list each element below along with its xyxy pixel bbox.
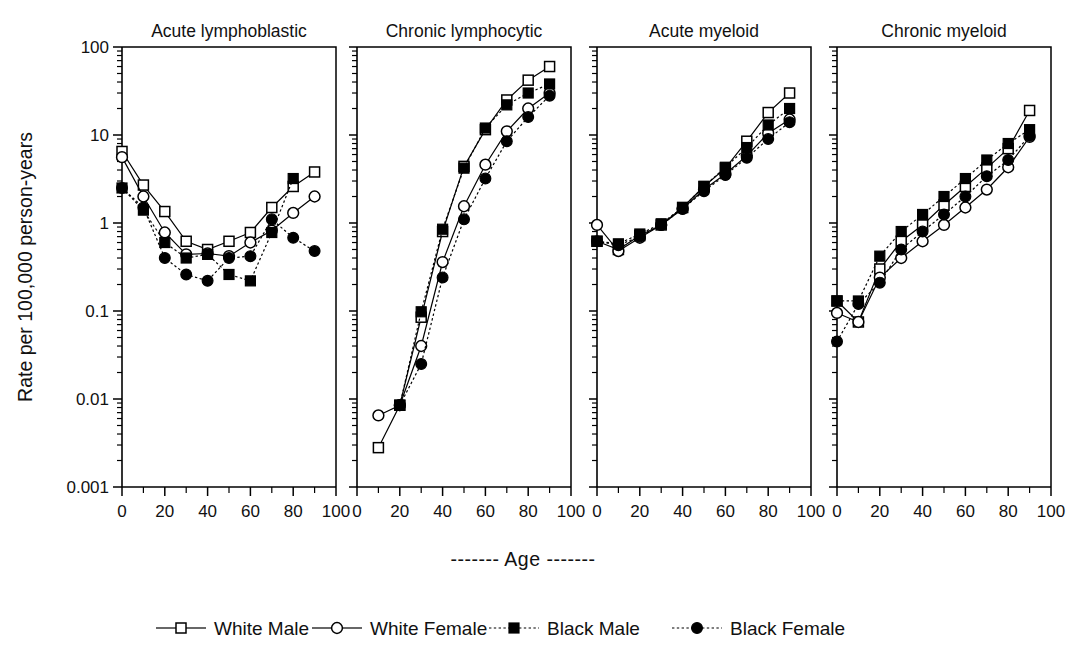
legend-marker-filled-circle [692,623,703,634]
data-point [545,62,555,72]
data-point [181,236,191,246]
data-point [523,88,533,98]
y-tick-label: 0.1 [85,302,109,321]
data-point [982,155,992,165]
data-point [960,202,971,213]
x-tick-label: 80 [284,502,303,521]
data-point [634,231,645,242]
data-point [1003,139,1013,149]
x-tick-label: 100 [322,502,350,521]
x-tick-label: 0 [352,502,361,521]
data-point [853,299,864,310]
data-point [785,88,795,98]
legend-label: White Female [370,618,487,639]
data-point [1025,105,1035,115]
data-point [203,249,213,259]
data-point [741,152,752,163]
y-tick-label: 1 [100,214,109,233]
data-point [373,410,384,421]
x-tick-label: 20 [155,502,174,521]
data-point [939,220,950,231]
panel-title: Acute myeloid [649,21,759,41]
y-axis: 1001010.10.010.001 [66,38,122,497]
legend-item-white-male[interactable]: White Male [156,618,309,639]
data-point [138,180,148,190]
x-tick-label: 100 [557,502,585,521]
data-point [267,203,277,213]
data-point [309,191,320,202]
data-point [245,237,256,248]
legend-item-black-female[interactable]: Black Female [672,618,845,639]
panel-4: 020406080100Chronic myeloid [829,21,1065,521]
data-point [832,336,843,347]
panel-title: Chronic myeloid [881,21,1006,41]
data-point [416,307,426,317]
data-point [159,253,170,264]
data-point [288,232,299,243]
data-point [288,174,298,184]
data-point [960,191,971,202]
data-point [763,134,774,145]
data-point [1024,130,1035,141]
x-tick-label: 40 [673,502,692,521]
data-point [160,207,170,217]
data-point [373,443,383,453]
data-point [592,220,603,231]
series-white-female [373,88,555,421]
data-point [437,272,448,283]
legend-label: Black Female [730,618,845,639]
data-point [523,112,534,123]
data-point [544,90,555,101]
x-tick-label: 20 [630,502,649,521]
data-point [545,79,555,89]
x-tick-label: 0 [117,502,126,521]
data-point [438,224,448,234]
legend-marker-open-square [176,623,186,633]
legend-item-black-male[interactable]: Black Male [489,618,640,639]
data-point [613,240,624,251]
data-point [785,104,795,114]
data-point [224,236,234,246]
y-tick-label: 10 [90,126,109,145]
legend-label: Black Male [547,618,640,639]
data-point [245,227,255,237]
data-point [245,276,255,286]
x-tick-label: 100 [1037,502,1065,521]
data-point [742,143,752,153]
y-axis-title: Rate per 100,000 person-years [14,132,36,402]
series-black-male [592,104,795,249]
panel-2: 020406080100Chronic lymphocytic [349,21,585,521]
x-tick-label: 80 [999,502,1018,521]
legend-item-white-female[interactable]: White Female [312,618,487,639]
data-point [981,184,992,195]
data-point [592,236,603,247]
x-tick-label: 100 [797,502,825,521]
data-point [480,159,491,170]
x-tick-label: 0 [832,502,841,521]
x-tick-label: 60 [956,502,975,521]
data-point [459,163,469,173]
data-point [309,246,320,257]
data-point [117,152,128,163]
data-point [159,227,170,238]
x-tick-label: 60 [716,502,735,521]
legend: White MaleWhite FemaleBlack MaleBlack Fe… [156,618,845,639]
data-point [656,220,667,231]
data-point [160,238,170,248]
series-white-male [592,88,795,254]
data-point [523,75,533,85]
data-point [394,400,405,411]
data-point [832,296,842,306]
data-point [763,108,773,118]
data-point [480,173,491,184]
x-axis-title-text: ------- Age ------- [451,548,596,570]
data-point [720,170,731,181]
data-point [245,251,256,262]
panel-title: Acute lymphoblastic [151,21,307,41]
legend-marker-open-circle [332,623,343,634]
legend-marker-filled-square [509,623,519,633]
series-black-female [592,117,795,251]
data-point [459,214,470,225]
y-tick-label: 0.01 [76,390,109,409]
panel-3: 020406080100Acute myeloid [589,21,825,521]
